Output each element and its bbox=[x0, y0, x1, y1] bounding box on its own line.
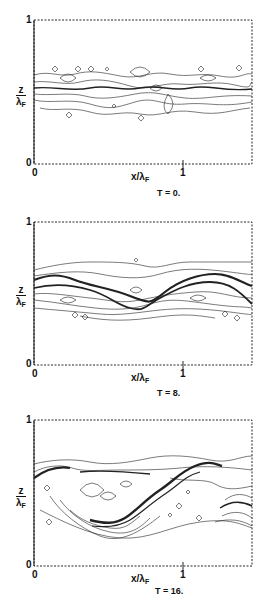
x-tick-start: 0 bbox=[32, 570, 38, 580]
contour-plot-t0 bbox=[0, 0, 268, 200]
x-tick-one: 1 bbox=[180, 168, 186, 178]
y-tick-bottom: 0 bbox=[26, 560, 32, 570]
x-axis-label: x/λF bbox=[131, 574, 149, 587]
x-axis-label: x/λF bbox=[131, 373, 149, 386]
x-tick-one: 1 bbox=[180, 369, 186, 379]
panel-t8: 1 0 0 1 x/λF z λF T = 8. bbox=[0, 200, 268, 400]
time-label: T = 0. bbox=[157, 188, 180, 198]
time-label: T = 16. bbox=[155, 586, 183, 596]
x-tick-start: 0 bbox=[32, 168, 38, 178]
x-tick-start: 0 bbox=[32, 369, 38, 379]
y-tick-top: 1 bbox=[26, 15, 32, 25]
y-axis-label: z λF bbox=[16, 284, 26, 310]
panel-t0: 1 0 0 1 x/λF z λF T = 0. bbox=[0, 0, 268, 200]
time-label: T = 8. bbox=[157, 388, 180, 398]
panel-t16: 1 0 0 1 x/λF z λF T = 16. bbox=[0, 400, 268, 600]
contour-plot-t8 bbox=[0, 200, 268, 400]
contour-plot-t16 bbox=[0, 400, 268, 602]
x-tick-one: 1 bbox=[180, 570, 186, 580]
y-tick-bottom: 0 bbox=[26, 359, 32, 369]
x-axis-label: x/λF bbox=[131, 172, 149, 185]
y-axis-label: z λF bbox=[16, 84, 26, 110]
y-axis-label: z λF bbox=[16, 485, 26, 511]
y-tick-bottom: 0 bbox=[26, 158, 32, 168]
y-tick-top: 1 bbox=[26, 217, 32, 227]
y-tick-top: 1 bbox=[26, 415, 32, 425]
